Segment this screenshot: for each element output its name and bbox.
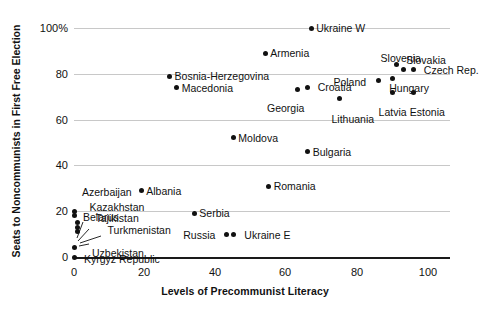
x-tick-0-label: 0 bbox=[71, 266, 77, 278]
x-tick-40: 40 bbox=[195, 262, 235, 280]
y-tick-80-label: 80 bbox=[56, 69, 68, 80]
y-tick-20-label: 20 bbox=[56, 206, 68, 217]
data-point bbox=[263, 51, 268, 56]
data-point-label: Lithuania bbox=[332, 114, 375, 125]
data-point bbox=[72, 213, 77, 218]
gridline-60 bbox=[74, 120, 450, 121]
data-point bbox=[295, 87, 300, 92]
data-point bbox=[224, 232, 229, 237]
data-point-label: Tajikistan bbox=[96, 213, 139, 224]
y-tick-60-label: 60 bbox=[56, 115, 68, 126]
data-point-label: Macedonia bbox=[182, 83, 233, 94]
x-tick-20-label: 20 bbox=[138, 266, 150, 278]
x-tick-60: 60 bbox=[265, 262, 305, 280]
data-point bbox=[72, 245, 77, 250]
data-point bbox=[401, 67, 406, 72]
data-point-label: Romania bbox=[274, 181, 316, 192]
y-tick-100-label: 100% bbox=[40, 23, 68, 34]
x-axis-title: Levels of Precommunist Literacy bbox=[0, 285, 490, 297]
y-axis-title: Seats to Noncommunists in First Free Ele… bbox=[10, 21, 22, 261]
data-point bbox=[309, 26, 314, 31]
gridline-40 bbox=[74, 165, 450, 166]
data-point-label: Georgia bbox=[267, 103, 304, 114]
data-point bbox=[167, 74, 172, 79]
data-point-label: Croatia bbox=[318, 82, 352, 93]
data-point bbox=[390, 90, 395, 95]
data-point bbox=[411, 90, 416, 95]
data-point-label: Kazakhstan bbox=[90, 202, 145, 213]
data-point-label: Azerbaijan bbox=[82, 187, 132, 198]
x-tick-40-label: 40 bbox=[209, 266, 221, 278]
gridline-100 bbox=[74, 28, 450, 29]
data-point bbox=[231, 232, 236, 237]
x-tick-100: 100 bbox=[408, 262, 448, 280]
data-point bbox=[72, 255, 77, 260]
data-point-label: Kyrgyz Republic bbox=[84, 254, 160, 265]
data-point-label: Russia bbox=[183, 230, 215, 241]
data-point-label: Turkmenistan bbox=[108, 225, 171, 236]
data-point-label: Czech Rep. bbox=[424, 65, 479, 76]
x-tick-100-label: 100 bbox=[419, 266, 437, 278]
data-point-label: Bulgaria bbox=[313, 147, 352, 158]
data-point-label: Albania bbox=[146, 186, 181, 197]
y-tick-40-label: 40 bbox=[56, 160, 68, 171]
data-point-label: Armenia bbox=[270, 48, 309, 59]
scatter-chart: 100% 80 60 40 20 0 0 20 40 60 80 100 Lev… bbox=[0, 0, 490, 313]
data-point-label: Estonia bbox=[410, 107, 445, 118]
data-point bbox=[394, 62, 399, 67]
data-point bbox=[266, 184, 271, 189]
data-point bbox=[192, 211, 197, 216]
data-point bbox=[139, 188, 144, 193]
data-point-label: Ukraine E bbox=[244, 230, 290, 241]
x-tick-80: 80 bbox=[337, 262, 377, 280]
data-point-label: Ukraine W bbox=[316, 23, 365, 34]
data-point-label: Moldova bbox=[238, 133, 278, 144]
x-tick-80-label: 80 bbox=[351, 266, 363, 278]
x-tick-60-label: 60 bbox=[279, 266, 291, 278]
data-point-label: Hungary bbox=[389, 83, 429, 94]
data-point bbox=[390, 76, 395, 81]
data-point-label: Latvia bbox=[379, 107, 407, 118]
data-point-label: Serbia bbox=[199, 208, 229, 219]
data-point-label: Bosnia-Herzegovina bbox=[175, 71, 270, 82]
